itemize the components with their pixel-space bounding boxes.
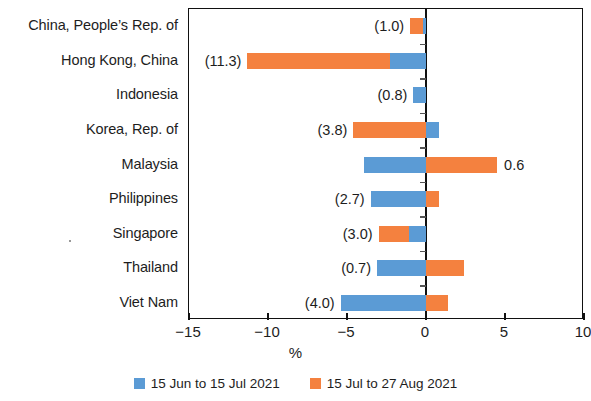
category-label: Singapore [113,225,178,241]
zero-axis-tick [420,78,426,79]
x-axis-tick-label: −10 [254,323,279,341]
bar-value-label: (3.8) [189,123,347,137]
x-axis-tick-label: 10 [575,323,591,341]
category-label: Hong Kong, China [61,52,178,68]
bar-segment-series-2 [410,18,423,34]
category-label: China, People’s Rep. of [28,17,178,33]
x-axis-title: % [0,344,591,361]
category-label: Philippines [109,190,178,206]
x-axis-tick-label: 5 [500,323,508,341]
x-axis-tick-label: 0 [421,323,429,341]
category-label: Thailand [123,259,178,275]
category-label: Malaysia [122,156,178,172]
bar-segment-series-1 [426,122,439,138]
bar-value-label: (2.7) [189,192,365,206]
zero-axis-tick [420,147,426,148]
x-axis-tick [504,313,505,320]
zero-axis-tick [420,113,426,114]
blue-square-swatch [134,378,145,389]
legend-label: 15 Jun to 15 Jul 2021 [151,376,280,391]
bar-segment-series-2 [353,122,426,138]
bar-value-label: (1.0) [189,19,404,33]
legend-item[interactable]: 15 Jun to 15 Jul 2021 [134,376,280,391]
bar-segment-series-1 [341,295,426,311]
bar-value-label: 0.6 [504,158,524,172]
category-label: Viet Nam [119,294,178,310]
x-axis-tick [425,313,426,320]
chart-legend: 15 Jun to 15 Jul 202115 Jul to 27 Aug 20… [0,376,591,391]
bar-value-label: (3.0) [189,227,373,241]
zero-axis-tick [420,182,426,183]
legend-item[interactable]: 15 Jul to 27 Aug 2021 [310,376,458,391]
bar-value-label: (0.7) [189,261,371,275]
chart-figure: China, People’s Rep. ofHong Kong, ChinaI… [0,0,591,401]
x-axis-tick-labels: −15−10−50510 [188,323,583,343]
bar-segment-series-2 [426,157,497,173]
bar-segment-series-1 [413,87,426,103]
orange-square-swatch [310,378,321,389]
zero-axis-tick [420,251,426,252]
bar-segment-series-1 [409,226,426,242]
zero-axis-tick [420,216,426,217]
category-label: Korea, Rep. of [86,121,178,137]
x-axis-tick [583,313,584,320]
legend-label: 15 Jul to 27 Aug 2021 [327,376,458,391]
x-axis-tick-label: −15 [175,323,200,341]
bar-segment-series-1 [377,260,426,276]
bar-segment-series-1 [390,53,426,69]
bar-segment-series-2 [247,53,389,69]
x-axis-tick [346,313,347,320]
bar-value-label: (11.3) [189,54,241,68]
category-label: Indonesia [116,86,178,102]
x-axis-tick [267,313,268,320]
x-axis-tick-label: −5 [337,323,354,341]
bar-segment-series-1 [364,157,426,173]
bar-row [189,53,582,69]
bar-segment-series-2 [426,260,464,276]
bar-segment-series-2 [426,295,448,311]
zero-axis-tick [420,44,426,45]
bar-segment-series-1 [423,18,426,34]
bar-segment-series-2 [379,226,409,242]
bar-value-label: (0.8) [189,88,407,102]
plot-area: (1.0)(11.3)(0.8)(3.8)0.6(2.7)(3.0)(0.7)(… [188,8,583,319]
zero-axis-tick [420,285,426,286]
bar-segment-series-1 [371,191,426,207]
category-axis: China, People’s Rep. ofHong Kong, ChinaI… [0,8,184,319]
bar-value-label: (4.0) [189,296,335,310]
bar-segment-series-2 [426,191,439,207]
x-axis-tick [188,313,189,320]
